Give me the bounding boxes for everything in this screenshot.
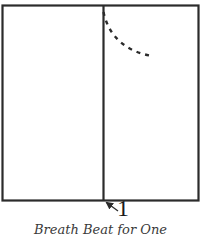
diagram-caption: Breath Beat for One: [0, 222, 201, 235]
dashed-breath-curve: [104, 12, 154, 56]
breath-beat-diagram: [0, 0, 201, 235]
outer-frame: [3, 6, 199, 201]
beat-number-label: 1: [117, 196, 129, 220]
